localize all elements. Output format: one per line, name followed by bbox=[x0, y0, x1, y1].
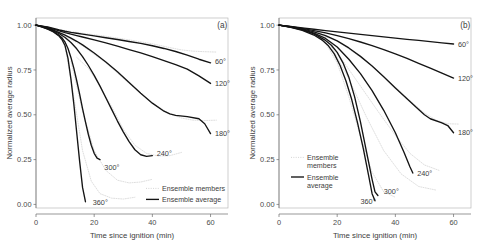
y-tick-label: 0.25 bbox=[17, 155, 31, 164]
series-angle-label: 240° bbox=[157, 149, 172, 158]
panel-a: 0.000.250.500.751.000204060Time since ig… bbox=[0, 0, 242, 247]
legend-average-label-line2: average bbox=[307, 182, 333, 190]
x-tick-label: 20 bbox=[333, 218, 341, 227]
x-tick-label: 60 bbox=[449, 218, 457, 227]
x-axis-title: Time since ignition (min) bbox=[90, 231, 175, 240]
legend-members-label-line1: Ensemble bbox=[307, 154, 339, 162]
x-tick-label: 60 bbox=[206, 218, 214, 227]
y-tick-label: 0.50 bbox=[17, 110, 31, 119]
series-angle-label: 60° bbox=[215, 57, 226, 66]
ensemble-average-curve bbox=[279, 25, 413, 173]
y-tick-label: 0.25 bbox=[260, 155, 274, 164]
x-tick-label: 40 bbox=[148, 218, 156, 227]
y-tick-label: 0.75 bbox=[260, 66, 274, 75]
ensemble-average-curve bbox=[36, 25, 211, 63]
x-tick-label: 40 bbox=[391, 218, 399, 227]
ensemble-member-curve bbox=[326, 38, 439, 171]
y-tick-label: 0.00 bbox=[17, 200, 31, 209]
series-angle-label: 180° bbox=[458, 128, 473, 137]
panel-a-plot: 0.000.250.500.751.000204060Time since ig… bbox=[0, 0, 242, 247]
ensemble-average-curve bbox=[36, 25, 100, 159]
series-angle-label: 120° bbox=[215, 79, 230, 88]
legend-average-label: Ensemble average bbox=[162, 196, 221, 204]
y-tick-label: 1.00 bbox=[260, 21, 274, 30]
x-tick-label: 0 bbox=[277, 218, 281, 227]
series-angle-label: 240° bbox=[417, 169, 432, 178]
y-tick-label: 0.50 bbox=[260, 110, 274, 119]
y-tick-label: 0.75 bbox=[17, 66, 31, 75]
series-angle-label: 120° bbox=[458, 74, 473, 83]
y-tick-label: 1.00 bbox=[17, 21, 31, 30]
series-angle-label: 60° bbox=[458, 40, 469, 49]
series-angle-label: 300° bbox=[384, 187, 399, 196]
series-angle-label: 360° bbox=[360, 197, 375, 206]
x-tick-label: 0 bbox=[34, 218, 38, 227]
panel-tag: (b) bbox=[460, 21, 470, 30]
panel-b-plot: 0.000.250.500.751.000204060Time since ig… bbox=[243, 0, 485, 247]
ensemble-average-curve bbox=[279, 25, 454, 78]
x-axis-title: Time since ignition (min) bbox=[333, 231, 418, 240]
ensemble-average-curve bbox=[36, 25, 152, 156]
series-angle-label: 360° bbox=[93, 198, 108, 207]
y-axis-title: Normalized average radius bbox=[5, 66, 14, 159]
y-axis-title: Normalized average radius bbox=[248, 66, 257, 159]
legend-average-label-line1: Ensemble bbox=[307, 174, 339, 182]
legend-members-label: Ensemble members bbox=[162, 185, 226, 193]
ensemble-member-curve bbox=[279, 25, 459, 124]
panel-b: 0.000.250.500.751.000204060Time since ig… bbox=[243, 0, 485, 247]
ensemble-average-curve bbox=[36, 25, 211, 133]
x-tick-label: 20 bbox=[90, 218, 98, 227]
panel-tag: (a) bbox=[217, 21, 227, 30]
series-angle-label: 300° bbox=[104, 163, 119, 172]
ensemble-average-curve bbox=[279, 25, 454, 44]
y-tick-label: 0.00 bbox=[260, 200, 274, 209]
legend-members-label-line2: members bbox=[307, 162, 337, 170]
series-angle-label: 180° bbox=[215, 129, 230, 138]
figure-root: 0.000.250.500.751.000204060Time since ig… bbox=[0, 0, 485, 247]
